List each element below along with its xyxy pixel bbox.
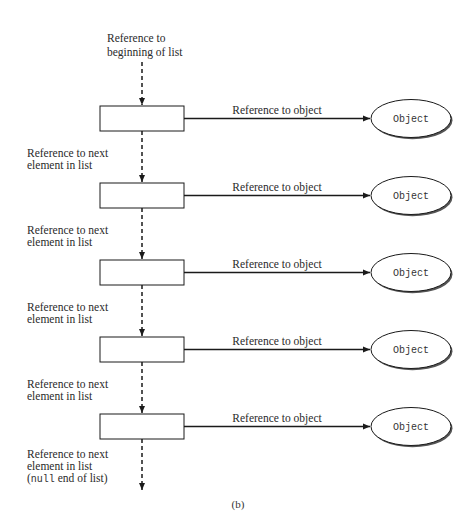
next-reference-label: Reference to nextelement in list	[27, 301, 109, 325]
next-reference-label: Reference to nextelement in list	[27, 147, 109, 171]
list-node: Reference to objectObjectReference to ne…	[27, 177, 453, 260]
list-node: Reference to objectObject	[100, 408, 453, 491]
list-node: Reference to objectObjectReference to ne…	[27, 254, 453, 337]
node-box	[100, 106, 184, 131]
object-label: Object	[393, 345, 429, 356]
null-keyword: null	[31, 474, 55, 485]
node-box	[100, 260, 184, 285]
next-reference-label: Reference to nextelement in list	[27, 224, 109, 248]
linked-list-diagram: Reference to beginning of list Reference…	[0, 0, 476, 525]
figure-caption: (b)	[232, 498, 245, 511]
next-reference-label: Reference to nextelement in list	[27, 378, 109, 402]
list-node: Reference to objectObjectReference to ne…	[27, 100, 453, 183]
object-reference-label: Reference to object	[232, 412, 322, 425]
object-label: Object	[393, 422, 429, 433]
object-reference-label: Reference to object	[232, 258, 322, 271]
object-label: Object	[393, 268, 429, 279]
node-box	[100, 414, 184, 439]
null-end-label: Reference to next element in list (null …	[27, 448, 111, 485]
object-reference-label: Reference to object	[232, 181, 322, 194]
head-reference-label: Reference to beginning of list	[107, 32, 183, 59]
object-label: Object	[393, 191, 429, 202]
object-reference-label: Reference to object	[232, 335, 322, 348]
object-reference-label: Reference to object	[232, 104, 322, 117]
node-list: Reference to objectObjectReference to ne…	[27, 62, 453, 490]
node-box	[100, 183, 184, 208]
node-box	[100, 337, 184, 362]
list-node: Reference to objectObjectReference to ne…	[27, 331, 453, 414]
object-label: Object	[393, 114, 429, 125]
